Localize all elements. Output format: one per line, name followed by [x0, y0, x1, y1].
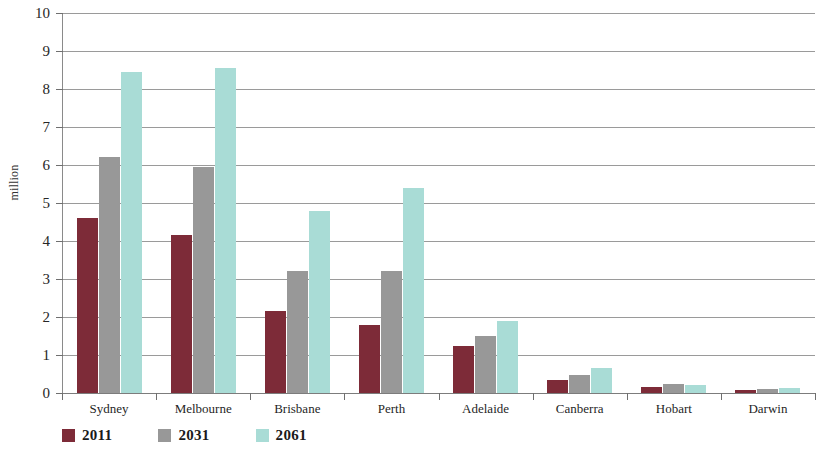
x-axis-tick-label: Brisbane — [250, 401, 344, 417]
x-axis: SydneyMelbourneBrisbanePerthAdelaideCanb… — [62, 393, 815, 419]
bar — [475, 336, 496, 393]
chart-legend: 201120312061 — [62, 424, 353, 446]
y-axis-tick-mark — [56, 13, 63, 14]
x-axis-tick-label: Darwin — [721, 401, 815, 417]
bar — [547, 380, 568, 393]
legend-item[interactable]: 2031 — [158, 427, 209, 444]
x-axis-tick-mark — [250, 393, 251, 400]
bar — [287, 271, 308, 393]
bar — [265, 311, 286, 393]
bar-group — [359, 13, 424, 393]
bar — [591, 368, 612, 393]
legend-item[interactable]: 2061 — [256, 427, 307, 444]
y-axis-tick-mark — [56, 279, 63, 280]
y-axis-tick-mark — [56, 203, 63, 204]
bar — [359, 325, 380, 393]
legend-swatch-icon — [62, 429, 75, 442]
bar-group — [171, 13, 236, 393]
legend-label: 2031 — [178, 427, 209, 444]
legend-swatch-icon — [158, 429, 171, 442]
bar — [77, 218, 98, 393]
x-axis-tick-mark — [815, 393, 816, 400]
x-axis-tick-label: Melbourne — [156, 401, 250, 417]
y-axis-tick-label: 2 — [4, 310, 50, 325]
x-axis-tick-mark — [156, 393, 157, 400]
bar-chart: million 012345678910 SydneyMelbourneBris… — [0, 0, 819, 450]
x-axis-tick-mark — [439, 393, 440, 400]
x-axis-tick-mark — [62, 393, 63, 400]
bar — [193, 167, 214, 393]
bar-group — [77, 13, 142, 393]
bar — [309, 211, 330, 393]
y-axis-tick-mark — [56, 51, 63, 52]
bar — [99, 157, 120, 393]
legend-label: 2011 — [82, 427, 112, 444]
plot-area: 012345678910 — [62, 13, 815, 393]
y-axis-tick-label: 5 — [4, 196, 50, 211]
y-axis-tick-label: 1 — [4, 348, 50, 363]
y-axis-tick-label: 3 — [4, 272, 50, 287]
legend-label: 2061 — [276, 427, 307, 444]
y-axis-tick-mark — [56, 165, 63, 166]
x-axis-tick-label: Sydney — [62, 401, 156, 417]
x-axis-tick-label: Perth — [344, 401, 438, 417]
y-axis-tick-label: 10 — [4, 6, 50, 21]
bar — [569, 375, 590, 393]
y-axis-tick-mark — [56, 355, 63, 356]
x-axis-tick-label: Hobart — [627, 401, 721, 417]
x-axis-tick-label: Canberra — [533, 401, 627, 417]
bar — [497, 321, 518, 393]
legend-swatch-icon — [256, 429, 269, 442]
y-axis-tick-label: 0 — [4, 386, 50, 401]
legend-item[interactable]: 2011 — [62, 427, 112, 444]
x-axis-tick-label: Adelaide — [439, 401, 533, 417]
y-axis-tick-label: 9 — [4, 44, 50, 59]
y-axis-tick-label: 7 — [4, 120, 50, 135]
bar — [453, 346, 474, 394]
bar-group — [453, 13, 518, 393]
y-axis-tick-mark — [56, 317, 63, 318]
y-axis-tick-mark — [56, 89, 63, 90]
bar — [121, 72, 142, 393]
bar — [685, 385, 706, 393]
bar — [381, 271, 402, 393]
bar — [215, 68, 236, 393]
y-axis-tick-label: 6 — [4, 158, 50, 173]
x-axis-tick-mark — [344, 393, 345, 400]
bar-group — [547, 13, 612, 393]
bar-group — [735, 13, 800, 393]
y-axis-tick-label: 8 — [4, 82, 50, 97]
bar-group — [265, 13, 330, 393]
bar-group — [641, 13, 706, 393]
x-axis-tick-mark — [721, 393, 722, 400]
y-axis-tick-mark — [56, 241, 63, 242]
x-axis-tick-mark — [533, 393, 534, 400]
bar — [663, 384, 684, 394]
y-axis-tick-mark — [56, 127, 63, 128]
x-axis-tick-mark — [627, 393, 628, 400]
bar — [403, 188, 424, 393]
y-axis-tick-label: 4 — [4, 234, 50, 249]
bar — [171, 235, 192, 393]
